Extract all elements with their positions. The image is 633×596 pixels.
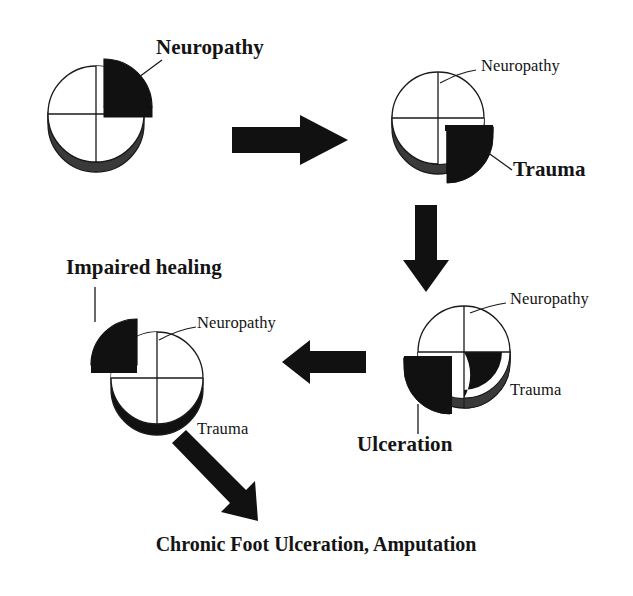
label-ulceration-stage3: Ulceration [357, 433, 452, 457]
label-neuropathy-stage4: Neuropathy [197, 314, 276, 332]
arrow-left-icon [282, 340, 366, 384]
arrow-right-icon [232, 115, 348, 165]
pie-stage-1-neuropathy [48, 59, 152, 172]
leader-line-trauma-bold [487, 152, 512, 170]
diagram-canvas: Neuropathy Neuropathy Trauma Neuropathy … [0, 0, 633, 596]
label-trauma-stage2: Trauma [513, 158, 586, 182]
label-impaired-healing-stage4: Impaired healing [66, 256, 222, 280]
leader-line-neuropathy-1 [139, 60, 162, 77]
label-neuropathy-stage3: Neuropathy [510, 290, 589, 308]
label-trauma-stage3: Trauma [510, 381, 561, 399]
label-trauma-stage4: Trauma [197, 420, 248, 438]
label-neuropathy-stage2: Neuropathy [481, 57, 560, 75]
label-neuropathy-stage1: Neuropathy [156, 36, 264, 60]
pie-stage-4-impaired-healing [91, 319, 203, 435]
label-outcome: Chronic Foot Ulceration, Amputation [146, 532, 486, 556]
arrow-diagonal-down-right-icon [172, 430, 258, 521]
pie-stage-3-ulceration [404, 306, 510, 414]
pie-stage-2-trauma [392, 72, 493, 183]
arrow-down-icon [403, 205, 449, 292]
